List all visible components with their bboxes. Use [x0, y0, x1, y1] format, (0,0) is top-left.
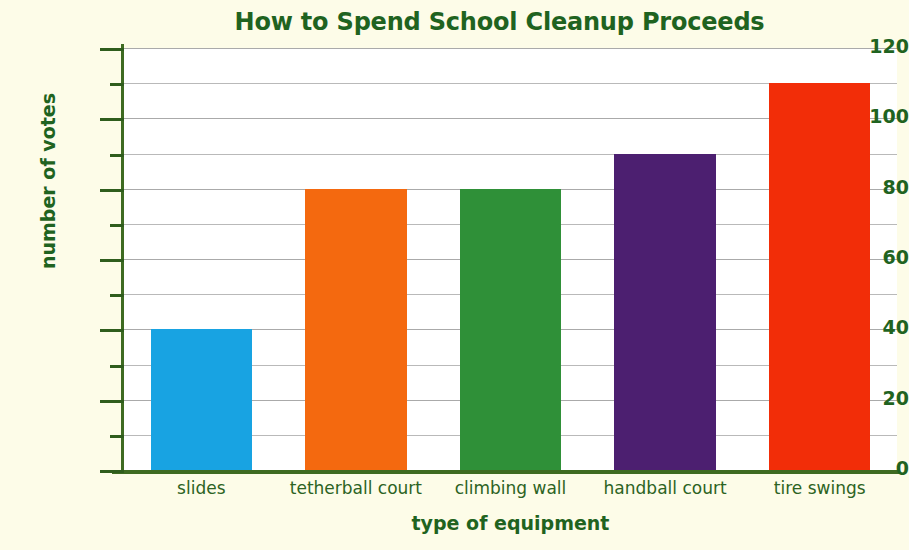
y-axis-tick-label: 80 [817, 176, 909, 198]
bar [614, 154, 715, 471]
y-axis-tick-label: 40 [817, 316, 909, 338]
x-axis-category-label: tire swings [742, 478, 897, 498]
y-axis-tick-label: 120 [817, 35, 909, 57]
x-axis-title: type of equipment [124, 512, 897, 534]
y-axis-tick-major [100, 400, 124, 403]
y-axis-tick-major [100, 470, 124, 473]
bar-chart: How to Spend School Cleanup Proceeds num… [0, 0, 909, 550]
x-axis-category-label: slides [124, 478, 279, 498]
y-axis-tick-major [100, 118, 124, 121]
y-axis-tick-major [100, 259, 124, 262]
y-axis-tick-minor [110, 224, 124, 227]
x-axis-category-label: tetherball court [279, 478, 434, 498]
chart-title: How to Spend School Cleanup Proceeds [0, 8, 909, 36]
y-axis-tick-major [100, 48, 124, 51]
x-axis-line [112, 470, 900, 474]
y-axis-title: number of votes [37, 71, 59, 291]
x-axis-category-label: handball court [588, 478, 743, 498]
y-axis-tick-minor [110, 154, 124, 157]
y-axis-tick-label: 60 [817, 246, 909, 268]
y-axis-tick-major [100, 329, 124, 332]
y-axis-tick-label: 20 [817, 387, 909, 409]
bar [305, 189, 406, 470]
y-axis-tick-label: 0 [817, 457, 909, 479]
bar [460, 189, 561, 470]
y-axis-tick-minor [110, 83, 124, 86]
y-axis-tick-minor [110, 294, 124, 297]
x-axis-category-label: climbing wall [433, 478, 588, 498]
plot-area [124, 48, 897, 470]
y-axis-tick-major [100, 189, 124, 192]
y-axis-tick-minor [110, 435, 124, 438]
y-axis-tick-label: 100 [817, 105, 909, 127]
y-axis-tick-minor [110, 365, 124, 368]
bar [151, 329, 252, 470]
gridline [124, 48, 897, 49]
bar [769, 83, 870, 470]
